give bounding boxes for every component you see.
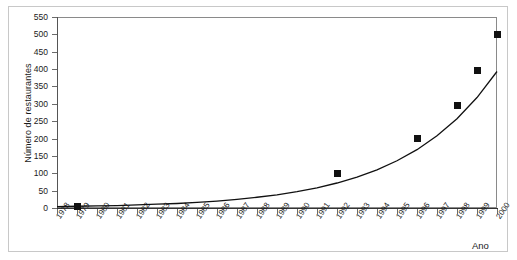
y-tick-label: 450 — [22, 48, 48, 56]
y-tick-mark — [52, 104, 57, 105]
y-tick-mark — [52, 86, 57, 87]
plot-area-frame — [57, 17, 497, 208]
chart-figure: Número de restaurantes 05010015020025030… — [0, 0, 517, 260]
y-axis-line — [57, 17, 58, 209]
y-tick-mark — [52, 17, 57, 18]
y-tick-label: 50 — [22, 187, 48, 195]
y-tick-mark — [52, 156, 57, 157]
y-tick-label: 350 — [22, 82, 48, 90]
y-tick-mark — [52, 34, 57, 35]
data-point-marker — [454, 102, 461, 109]
y-tick-label: 100 — [22, 169, 48, 177]
y-tick-label: 0 — [22, 204, 48, 212]
y-tick-mark — [52, 52, 57, 53]
data-point-marker — [334, 170, 341, 177]
y-tick-label: 500 — [22, 30, 48, 38]
x-axis-title: Ano — [472, 240, 489, 251]
y-tick-mark — [52, 69, 57, 70]
data-point-marker — [474, 67, 481, 74]
y-tick-mark — [52, 173, 57, 174]
y-tick-label: 400 — [22, 65, 48, 73]
y-tick-mark — [52, 139, 57, 140]
y-tick-mark — [52, 121, 57, 122]
y-axis-tick-labels: 050100150200250300350400450500550 — [22, 0, 48, 260]
y-tick-label: 200 — [22, 135, 48, 143]
y-tick-label: 300 — [22, 100, 48, 108]
data-point-marker — [414, 135, 421, 142]
y-tick-label: 150 — [22, 152, 48, 160]
y-tick-label: 250 — [22, 117, 48, 125]
data-point-marker — [74, 203, 81, 210]
y-tick-mark — [52, 191, 57, 192]
y-tick-label: 550 — [22, 13, 48, 21]
data-point-marker — [494, 31, 501, 38]
